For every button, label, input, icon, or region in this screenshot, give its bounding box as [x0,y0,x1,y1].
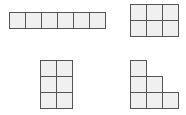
diagram-canvas [0,0,186,115]
unit-square [41,93,57,109]
unit-square [57,61,73,77]
shape-rect-2x3 [41,61,73,109]
unit-square [131,5,147,21]
shape-rect-3x2 [131,5,179,37]
unit-square [57,93,73,109]
shape-strip-1x6 [10,13,106,29]
shape-staircase [131,61,179,109]
unit-square [147,21,163,37]
unit-square [131,21,147,37]
unit-square [57,77,73,93]
unit-square [131,77,147,93]
unit-square [90,13,106,29]
unit-square [42,13,58,29]
unit-square [131,61,147,77]
unit-square [58,13,74,29]
unit-square [26,13,42,29]
unit-square [163,5,179,21]
unit-square [41,61,57,77]
unit-square [41,77,57,93]
unit-square [147,5,163,21]
unit-square [147,93,163,109]
unit-square [163,21,179,37]
unit-square [10,13,26,29]
unit-square [74,13,90,29]
unit-square [163,93,179,109]
unit-square [131,93,147,109]
unit-square [147,77,163,93]
